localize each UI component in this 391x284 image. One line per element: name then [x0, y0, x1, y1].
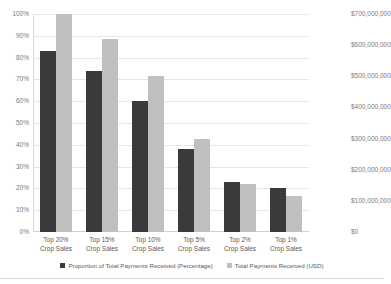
x-category-label-line2: Crop Sales — [79, 244, 125, 253]
legend-swatch-icon-percentage — [60, 263, 65, 268]
bar-percentage[interactable] — [86, 71, 102, 232]
x-category-label-line2: Crop Sales — [125, 244, 171, 253]
bar-usd[interactable] — [194, 139, 210, 232]
x-category-label-line2: Crop Sales — [33, 244, 79, 253]
y-tick-label-left: 90% — [16, 33, 29, 40]
bar-group — [263, 14, 309, 232]
chart-legend: Proportion of Total Payments Received (P… — [0, 262, 384, 269]
x-category-label-line1: Top 5% — [171, 235, 217, 244]
y-tick-label-right: $500,000,000 — [351, 73, 391, 80]
chart-title — [0, 0, 384, 6]
y-tick-label-left: 80% — [16, 54, 29, 61]
bar-percentage[interactable] — [270, 188, 286, 232]
bar-group — [79, 14, 125, 232]
x-category-label-line1: Top 15% — [79, 235, 125, 244]
legend-item-percentage: Proportion of Total Payments Received (P… — [60, 262, 212, 269]
x-category-label-line1: Top 10% — [125, 235, 171, 244]
x-category-label-line2: Crop Sales — [217, 244, 263, 253]
plot-area: 0%10%20%30%40%50%60%70%80%90%100% $0$100… — [33, 14, 309, 232]
x-category-label-line1: Top 2% — [217, 235, 263, 244]
y-tick-label-left: 10% — [16, 207, 29, 214]
y-tick-label-right: $400,000,000 — [351, 104, 391, 111]
x-category-label: Top 20%Crop Sales — [33, 235, 79, 259]
x-category-label: Top 1%Crop Sales — [263, 235, 309, 259]
y-tick-label-left: 100% — [12, 11, 29, 18]
bar-usd[interactable] — [240, 184, 256, 232]
legend-swatch-icon-usd — [227, 263, 232, 268]
bar-usd[interactable] — [148, 76, 164, 232]
y-tick-label-left: 30% — [16, 163, 29, 170]
y-tick-label-right: $700,000,000 — [351, 11, 391, 18]
y-tick-label-left: 70% — [16, 76, 29, 83]
bar-groups — [33, 14, 309, 232]
y-tick-label-left: 20% — [16, 185, 29, 192]
bar-usd[interactable] — [102, 39, 118, 232]
y-tick-label-left: 50% — [16, 120, 29, 127]
bar-percentage[interactable] — [132, 101, 148, 232]
y-tick-label-left: 60% — [16, 98, 29, 105]
legend-label-usd: Total Payments Received (USD) — [235, 262, 324, 269]
x-category-label: Top 5%Crop Sales — [171, 235, 217, 259]
x-category-label: Top 2%Crop Sales — [217, 235, 263, 259]
legend-item-usd: Total Payments Received (USD) — [227, 262, 324, 269]
x-category-label-line2: Crop Sales — [171, 244, 217, 253]
y-tick-label-right: $100,000,000 — [351, 198, 391, 205]
x-axis-category-labels: Top 20%Crop SalesTop 15%Crop SalesTop 10… — [33, 235, 309, 259]
x-category-label: Top 15%Crop Sales — [79, 235, 125, 259]
bar-group — [125, 14, 171, 232]
y-tick-label-left: 0% — [20, 229, 29, 236]
bar-group — [171, 14, 217, 232]
bar-percentage[interactable] — [40, 51, 56, 232]
x-category-label: Top 10%Crop Sales — [125, 235, 171, 259]
y-tick-label-right: $600,000,000 — [351, 42, 391, 49]
y-tick-label-right: $200,000,000 — [351, 166, 391, 173]
bar-group — [33, 14, 79, 232]
y-tick-label-right: $0 — [351, 229, 358, 236]
legend-label-percentage: Proportion of Total Payments Received (P… — [68, 262, 212, 269]
bar-usd[interactable] — [56, 14, 72, 232]
bar-group — [217, 14, 263, 232]
x-category-label-line1: Top 20% — [33, 235, 79, 244]
bar-usd[interactable] — [286, 196, 302, 232]
bottom-divider — [0, 278, 384, 279]
bar-percentage[interactable] — [224, 182, 240, 232]
x-category-label-line1: Top 1% — [263, 235, 309, 244]
y-tick-label-left: 40% — [16, 142, 29, 149]
y-tick-label-right: $300,000,000 — [351, 135, 391, 142]
bar-percentage[interactable] — [178, 149, 194, 232]
x-category-label-line2: Crop Sales — [263, 244, 309, 253]
